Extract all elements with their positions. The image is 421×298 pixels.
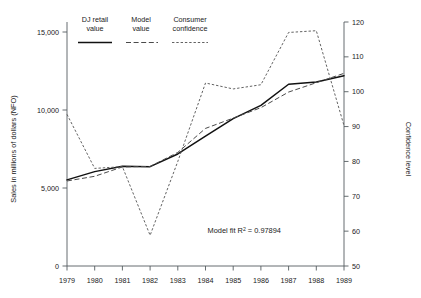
x-tick-labels: 1979198019811982198319841985198619871988… [59,276,352,285]
line-chart: 1979198019811982198319841985198619871988… [0,0,421,298]
x-tick-label: 1981 [114,276,130,285]
y-tick-label-right: 110 [352,52,363,61]
legend-label-line2: value [86,24,103,33]
x-tick-label: 1984 [198,276,214,285]
y-tick-label-left: 5,000 [41,184,59,193]
chart-legend: DJ retailvalueModelvalueConsumerconfiden… [78,15,208,43]
y-tick-label-right: 120 [352,18,364,27]
legend-label-line1: Model [131,15,151,24]
y-tick-label-right: 60 [352,227,360,236]
y-tick-labels-left: 05,00010,00015,000 [37,28,59,271]
y-axis-title-right: Confidence level [404,122,413,177]
chart-container: 1979198019811982198319841985198619871988… [0,0,421,298]
legend-label-line1: Consumer [173,15,207,24]
x-tick-label: 1987 [281,276,297,285]
series-line-dj-retail-value [67,76,344,180]
legend-label-line1: DJ retail [82,15,109,24]
x-tick-label: 1989 [336,276,352,285]
y-tick-label-left: 0 [55,262,59,271]
x-tick-label: 1985 [225,276,241,285]
y-axis-title-left: Sales in millions of dollars (NFO) [9,95,18,203]
y-tick-label-left: 10,000 [37,106,59,115]
y-tick-label-right: 50 [352,262,360,271]
x-tick-label: 1986 [253,276,269,285]
y-tick-label-left: 15,000 [37,28,59,37]
series-line-model-value [67,73,344,181]
x-tick-label: 1980 [87,276,103,285]
x-tick-label: 1983 [170,276,186,285]
y-tick-label-right: 80 [352,157,360,166]
axes-layer [63,22,349,271]
x-tick-label: 1988 [308,276,324,285]
model-fit-suffix: = 0.97894 [246,226,281,235]
series-line-consumer-confidence [67,31,344,236]
model-fit-prefix: Model fit R [208,226,243,235]
legend-entry: Consumerconfidence [172,15,208,43]
y-tick-labels-right: 5060708090100110120 [352,18,364,271]
y-tick-label-right: 90 [352,122,360,131]
x-tick-label: 1979 [59,276,75,285]
model-fit-annotation: Model fit R2 = 0.97894 [208,226,281,236]
legend-label-line2: value [132,24,149,33]
x-tick-label: 1982 [142,276,158,285]
legend-entry: DJ retailvalue [78,15,112,43]
legend-entry: Modelvalue [126,15,158,43]
y-tick-label-right: 70 [352,192,360,201]
data-series-layer [67,31,344,236]
y-tick-label-right: 100 [352,87,364,96]
model-fit-text: Model fit R2 = 0.97894 [208,226,281,236]
legend-label-line2: confidence [173,24,208,33]
